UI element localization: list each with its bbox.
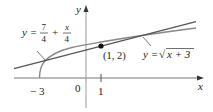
tangent-label-leader xyxy=(37,51,46,61)
origin-label: 0 xyxy=(75,82,81,94)
sqrt-label-radicand: x + 3 xyxy=(166,48,191,60)
y-axis-label: y xyxy=(75,3,81,15)
tangent-label-plus: + xyxy=(52,26,58,38)
tangent-label-frac1-num: 7 xyxy=(42,22,47,32)
sqrt-radical-icon: √ xyxy=(159,48,166,60)
x-axis-label: x xyxy=(197,80,203,92)
y-axis-arrow-icon xyxy=(84,5,89,12)
sqrt-label-lhs: y = xyxy=(142,48,158,60)
sqrt-equation-label: y = √ x + 3 xyxy=(142,48,194,60)
tangent-line-diagram: y x 0 − 3 1 (1, 2) y = 7 4 + x 4 y = √ x… xyxy=(0,0,213,112)
x-tick-label-1: 1 xyxy=(98,85,104,97)
tangent-label-frac1-den: 4 xyxy=(42,34,47,44)
point-label: (1, 2) xyxy=(103,50,126,62)
tangent-label-lhs: y = xyxy=(21,26,37,38)
tangent-equation-label: y = 7 4 + x 4 xyxy=(21,22,71,44)
sqrt-label-leader xyxy=(143,37,151,46)
tangent-label-frac2-num: x xyxy=(64,22,69,32)
x-tick-label-neg3: − 3 xyxy=(30,85,45,97)
tangent-label-frac2-den: 4 xyxy=(65,34,70,44)
tangent-point xyxy=(98,43,103,48)
